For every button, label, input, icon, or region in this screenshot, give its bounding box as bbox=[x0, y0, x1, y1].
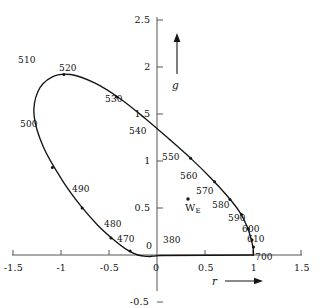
white-point-letter: W bbox=[185, 202, 195, 213]
wavelength-label-600: 600 bbox=[242, 225, 260, 234]
white-point-label: WE bbox=[185, 203, 201, 213]
wavelength-label-520: 520 bbox=[59, 64, 77, 73]
white-point-subscript: E bbox=[195, 207, 200, 215]
wavelength-dot-610 bbox=[252, 246, 255, 249]
y-tick-label: 2.5 bbox=[135, 15, 151, 25]
x-tick-label: 0.5 bbox=[198, 263, 214, 273]
y-tick-label: 1.5 bbox=[135, 109, 151, 119]
y-tick-label: 0.5 bbox=[135, 203, 151, 213]
wavelength-label-590: 590 bbox=[228, 214, 246, 223]
wavelength-dot-490 bbox=[81, 207, 84, 210]
wavelength-label-490: 490 bbox=[72, 185, 90, 194]
wavelength-label-380: 380 bbox=[163, 236, 181, 245]
y-tick-label: 1 bbox=[144, 156, 150, 166]
x-tick-label: -1.5 bbox=[4, 263, 23, 273]
wavelength-marker-dots bbox=[51, 73, 255, 253]
wavelength-label-560: 560 bbox=[180, 172, 198, 181]
point-equal-energy-white bbox=[186, 197, 189, 200]
wavelength-dot-470 bbox=[129, 250, 132, 253]
wavelength-dot-480 bbox=[109, 237, 112, 240]
wavelength-label-550: 550 bbox=[162, 153, 180, 162]
wavelength-dot-520 bbox=[62, 73, 65, 76]
data-point-markers bbox=[186, 197, 189, 200]
wavelength-label-530: 530 bbox=[105, 95, 123, 104]
g-axis-arrow-icon bbox=[174, 33, 181, 74]
y-axis-name: g bbox=[172, 80, 179, 91]
wavelength-label-480: 480 bbox=[104, 220, 122, 229]
wavelength-label-580: 580 bbox=[212, 201, 230, 210]
x-tick-label: 0 bbox=[153, 263, 159, 273]
wavelength-dot-550 bbox=[189, 157, 192, 160]
chromaticity-chart: -1.5-1-0.500.511.52.521.510.5-0.5 380470… bbox=[0, 0, 320, 308]
wavelength-label-470: 470 bbox=[117, 235, 135, 244]
wavelength-label-500: 500 bbox=[20, 120, 38, 129]
wavelength-label-700: 700 bbox=[255, 253, 273, 262]
r-axis-arrow-icon bbox=[225, 278, 263, 284]
y-tick-label: -0.5 bbox=[130, 297, 149, 307]
wavelength-label-540: 540 bbox=[129, 127, 147, 136]
origin-label: 0 bbox=[146, 241, 152, 251]
wavelength-dot-560 bbox=[213, 180, 216, 183]
x-tick-label: -1 bbox=[56, 263, 66, 273]
y-tick-label: 2 bbox=[144, 62, 150, 72]
wavelength-label-570: 570 bbox=[196, 187, 214, 196]
x-tick-label: 1 bbox=[251, 263, 257, 273]
wavelength-dot-500 bbox=[51, 166, 54, 169]
x-tick-label: -0.5 bbox=[100, 263, 119, 273]
x-tick-label: 1.5 bbox=[294, 263, 310, 273]
wavelength-label-510: 510 bbox=[18, 56, 36, 65]
x-axis-name: r bbox=[212, 276, 217, 287]
wavelength-label-610: 610 bbox=[247, 235, 265, 244]
